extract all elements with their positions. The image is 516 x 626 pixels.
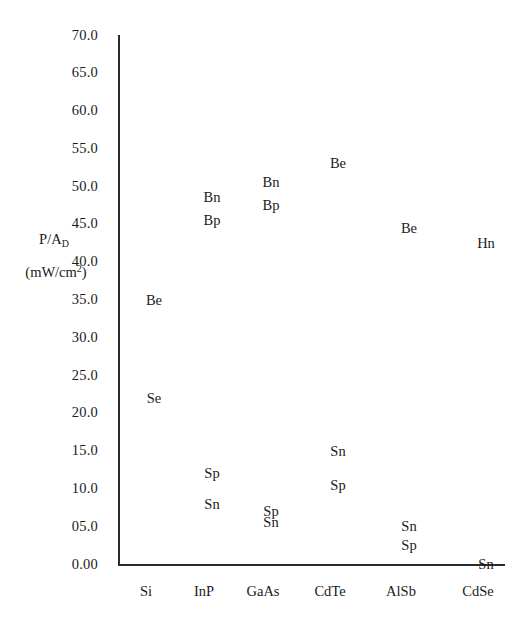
data-point-label: Sn (204, 496, 219, 511)
data-point-label: Bn (204, 190, 221, 205)
data-point-label: Sn (330, 443, 345, 458)
data-point-label: Sn (478, 557, 493, 572)
data-point-label: Sn (263, 515, 278, 530)
data-point-label: Se (147, 390, 162, 405)
data-point-label: Be (146, 292, 162, 307)
data-point-label: Sp (204, 466, 219, 481)
data-point-label: Bn (263, 175, 280, 190)
data-point-label: Sp (401, 538, 416, 553)
chart-figure: 70.065.060.055.050.045.040.035.030.025.0… (0, 0, 516, 626)
data-point-label: Bp (263, 198, 280, 213)
data-point-label: Sn (401, 519, 416, 534)
data-point-label: Sp (330, 477, 345, 492)
data-point-label: Be (401, 220, 417, 235)
data-point-label: Be (330, 156, 346, 171)
data-points: BeSeBnBpSpSnBnBpSpSnBeSnSpBeSnSpHnSn (0, 0, 516, 626)
data-point-label: Hn (477, 236, 495, 251)
data-point-label: Bp (204, 213, 221, 228)
